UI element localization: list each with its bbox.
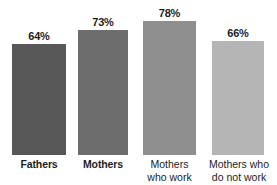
- bar-chart: 64% 73% 78% 66% Fathers Mothers Mothers …: [0, 0, 277, 185]
- plot-area: 64% 73% 78% 66%: [0, 0, 277, 155]
- category-label-fathers-line-0: Fathers: [6, 158, 72, 171]
- bar-mothers: [78, 30, 128, 155]
- bar-mothers-who-work: [143, 21, 196, 155]
- bar-value-label-3: 66%: [227, 27, 248, 39]
- category-axis: Fathers Mothers Mothers who work Mothers…: [0, 155, 277, 185]
- bar-group-0: 64%: [12, 44, 66, 155]
- category-label-mothers-who-work-line-1: who work: [137, 171, 202, 184]
- bar-value-label-1: 73%: [92, 16, 113, 28]
- category-label-mothers: Mothers: [70, 158, 136, 171]
- category-label-mothers-who-do-not-work-line-1: do not work: [202, 171, 276, 184]
- bar-value-label-0: 64%: [28, 30, 49, 42]
- bar-group-1: 73%: [78, 30, 128, 155]
- category-label-mothers-who-do-not-work: Mothers who do not work: [202, 158, 276, 183]
- category-label-mothers-who-do-not-work-line-0: Mothers who: [202, 158, 276, 171]
- bar-group-3: 66%: [212, 41, 264, 155]
- category-label-mothers-who-work: Mothers who work: [137, 158, 202, 183]
- bar-fathers: [12, 44, 66, 155]
- category-label-mothers-who-work-line-0: Mothers: [137, 158, 202, 171]
- bar-mothers-who-do-not-work: [212, 41, 264, 155]
- category-label-mothers-line-0: Mothers: [70, 158, 136, 171]
- category-label-fathers: Fathers: [6, 158, 72, 171]
- bar-value-label-2: 78%: [159, 7, 180, 19]
- bar-group-2: 78%: [143, 21, 196, 155]
